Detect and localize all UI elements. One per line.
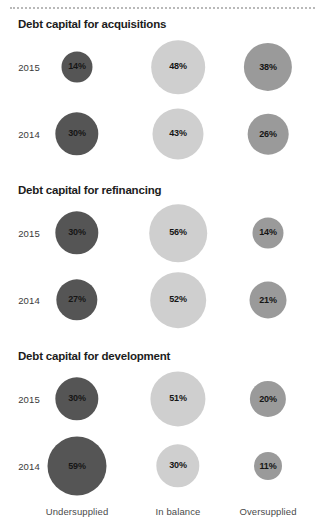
bubble-oversupplied[interactable]: 20% xyxy=(250,381,286,417)
chart-section: Debt capital for refinancing201530%56%14… xyxy=(0,184,323,350)
bubble-in-balance[interactable]: 30% xyxy=(156,444,199,487)
bubble-value-label: 11% xyxy=(259,462,276,471)
top-dotted-divider xyxy=(10,7,315,9)
bubble-in-balance[interactable]: 51% xyxy=(150,371,205,426)
row-label-year: 2014 xyxy=(18,295,40,306)
section-title: Debt capital for refinancing xyxy=(18,184,161,196)
bubble-value-label: 30% xyxy=(68,395,86,404)
bubble-value-label: 20% xyxy=(259,394,277,403)
bubble-value-label: 52% xyxy=(169,296,187,305)
bubble-value-label: 59% xyxy=(68,462,86,471)
chart-section: Debt capital for development201530%51%20… xyxy=(0,350,323,516)
bubble-oversupplied[interactable]: 21% xyxy=(250,282,287,319)
row-label-year: 2015 xyxy=(18,394,40,405)
bubble-undersupplied[interactable]: 14% xyxy=(61,51,92,82)
bubble-value-label: 27% xyxy=(68,296,86,305)
bubble-undersupplied[interactable]: 30% xyxy=(55,112,98,155)
row-label-year: 2015 xyxy=(18,62,40,73)
section-title: Debt capital for development xyxy=(18,350,170,362)
bubble-undersupplied[interactable]: 59% xyxy=(48,437,107,496)
row-label-year: 2015 xyxy=(18,228,40,239)
bubble-value-label: 30% xyxy=(68,130,86,139)
bubble-in-balance[interactable]: 43% xyxy=(152,108,203,159)
bubble-value-label: 26% xyxy=(259,130,277,139)
chart-section: Debt capital for acquisitions201514%48%3… xyxy=(0,18,323,184)
bubble-value-label: 14% xyxy=(259,228,277,237)
bubble-value-label: 51% xyxy=(169,395,187,404)
bubble-value-label: 43% xyxy=(169,129,187,138)
bubble-in-balance[interactable]: 48% xyxy=(151,40,205,94)
bubble-oversupplied[interactable]: 26% xyxy=(248,114,289,155)
axis-label-oversupplied: Oversupplied xyxy=(239,506,296,517)
bubble-chart-root: Debt capital for acquisitions201514%48%3… xyxy=(0,0,323,523)
row-label-year: 2014 xyxy=(18,461,40,472)
bubble-value-label: 21% xyxy=(259,295,277,304)
bubble-in-balance[interactable]: 56% xyxy=(149,204,207,262)
bubble-undersupplied[interactable]: 30% xyxy=(55,211,98,254)
bubble-oversupplied[interactable]: 14% xyxy=(252,217,283,248)
bubble-value-label: 48% xyxy=(169,62,187,71)
bubble-oversupplied[interactable]: 11% xyxy=(254,452,282,480)
bubble-value-label: 38% xyxy=(259,63,277,72)
bubble-undersupplied[interactable]: 27% xyxy=(56,279,97,320)
bubble-oversupplied[interactable]: 38% xyxy=(244,43,292,91)
axis-label-undersupplied: Undersupplied xyxy=(46,506,109,517)
section-title: Debt capital for acquisitions xyxy=(18,18,166,30)
bubble-value-label: 30% xyxy=(169,462,187,471)
row-label-year: 2014 xyxy=(18,129,40,140)
bubble-value-label: 14% xyxy=(68,62,86,71)
bubble-value-label: 56% xyxy=(169,229,187,238)
axis-label-in-balance: In balance xyxy=(156,506,201,517)
bubble-value-label: 30% xyxy=(68,229,86,238)
bubble-in-balance[interactable]: 52% xyxy=(150,272,206,328)
bubble-undersupplied[interactable]: 30% xyxy=(55,377,98,420)
